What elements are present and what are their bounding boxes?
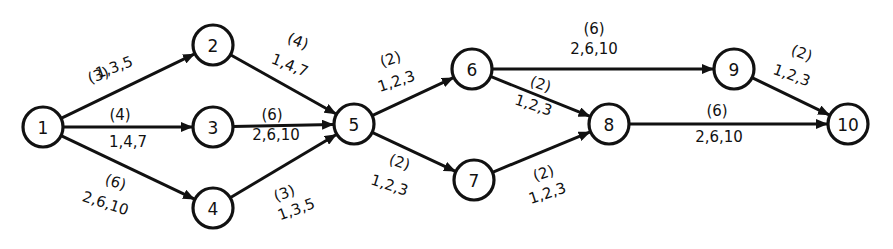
node-10: 10 (828, 104, 868, 144)
node-label: 7 (469, 171, 480, 191)
node-label: 3 (208, 118, 219, 138)
edge-estimates-label: 1,2,3 (771, 60, 813, 90)
node-2: 2 (193, 25, 233, 65)
edge-duration-label: (6) (583, 20, 604, 38)
edge-estimates-label: 1,2,3 (513, 91, 555, 120)
edge-estimates-label: 1,2,3 (527, 179, 569, 208)
edge-duration-label: (6) (261, 106, 282, 124)
arrow-5-7 (372, 132, 455, 171)
node-3: 3 (193, 107, 233, 147)
node-7: 7 (454, 160, 494, 200)
node-5: 5 (334, 104, 374, 144)
edge-estimates-label: 2,6,10 (252, 126, 300, 144)
node-1: 1 (23, 107, 63, 147)
node-label: 6 (467, 60, 478, 80)
node-label: 4 (208, 199, 219, 219)
node-label: 1 (38, 118, 49, 138)
edge-estimates-label: 2,6,10 (695, 128, 743, 146)
node-label: 9 (729, 60, 740, 80)
edge-duration-label: (4) (285, 29, 311, 54)
network-diagram: (3)1,3,5(4)1,4,7(6)2,6,10(4)1,4,7(6)2,6,… (0, 0, 893, 249)
node-label: 10 (837, 115, 859, 135)
edge-duration-label: (4) (109, 106, 130, 124)
node-9: 9 (714, 49, 754, 89)
edge-duration-label: (6) (706, 102, 727, 120)
node-8: 8 (589, 104, 629, 144)
edge-labels-layer: (3)1,3,5(4)1,4,7(6)2,6,10(4)1,4,7(6)2,6,… (80, 20, 815, 224)
edge-estimates-label: 1,2,3 (376, 67, 418, 96)
edge-duration-label: (2) (789, 41, 815, 65)
edge-duration-label: (2) (387, 150, 413, 174)
node-label: 5 (349, 115, 360, 135)
edge-duration-label: (6) (103, 170, 129, 194)
node-6: 6 (452, 49, 492, 89)
edge-estimates-label: 1,2,3 (369, 171, 411, 200)
node-label: 8 (604, 115, 615, 135)
node-4: 4 (193, 188, 233, 228)
edge-duration-label: (2) (378, 47, 404, 71)
edge-estimates-label: 2,6,10 (570, 40, 618, 58)
edge-estimates-label: 1,3,5 (93, 52, 135, 82)
node-label: 2 (208, 36, 219, 56)
edge-estimates-label: 1,4,7 (109, 133, 147, 151)
edge-estimates-label: 1,4,7 (269, 50, 311, 81)
